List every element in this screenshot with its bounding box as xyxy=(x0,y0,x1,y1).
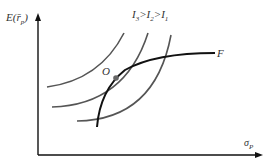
indifference-curve-i2 xyxy=(52,33,148,107)
optimum-point xyxy=(113,75,119,81)
frontier-label: F xyxy=(217,48,224,59)
efficient-frontier-curve xyxy=(97,53,215,127)
y-axis-arrow-icon xyxy=(35,13,41,21)
x-axis-label: σP xyxy=(244,138,253,151)
x-axis-arrow-icon xyxy=(255,152,263,158)
y-axis-label: E(r̄p) xyxy=(6,12,28,26)
indifference-curve-diagram: E(r̄p) I3>I2>I1 F O σP xyxy=(0,0,268,164)
indifference-curve-i3 xyxy=(47,33,124,87)
indifference-legend: I3>I2>I1 xyxy=(132,9,168,23)
diagram-canvas xyxy=(0,0,268,164)
optimum-label: O xyxy=(102,66,110,77)
